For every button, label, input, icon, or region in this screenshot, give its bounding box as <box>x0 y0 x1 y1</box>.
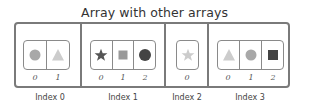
outer-index-label: Index 3 <box>220 93 280 102</box>
element-index: 0 <box>28 73 42 82</box>
element-index: 0 <box>221 73 235 82</box>
triangle-icon <box>222 48 236 62</box>
triangle-icon <box>51 48 65 62</box>
circle-icon <box>244 48 258 62</box>
diagram-title: Array with other arrays <box>0 5 309 20</box>
element-index: 1 <box>244 73 258 82</box>
outer-index-label: Index 0 <box>20 93 80 102</box>
array-cell <box>218 41 239 69</box>
inner-array-2 <box>176 40 199 70</box>
outer-index-label: Index 2 <box>157 93 217 102</box>
array-cell <box>261 41 283 69</box>
element-index: 0 <box>94 73 108 82</box>
element-index: 2 <box>266 73 280 82</box>
element-index: 1 <box>116 73 130 82</box>
array-cell <box>24 41 46 69</box>
inner-array-1 <box>90 40 156 70</box>
array-cell <box>239 41 261 69</box>
element-index: 1 <box>51 73 65 82</box>
array-cell <box>133 41 155 69</box>
star-icon <box>181 48 195 62</box>
array-cell <box>177 41 198 69</box>
outer-index-label: Index 1 <box>93 93 153 102</box>
outer-divider <box>207 22 209 88</box>
array-cell <box>112 41 134 69</box>
star-icon <box>94 48 108 62</box>
inner-array-3 <box>217 40 284 70</box>
array-cell <box>46 41 69 69</box>
element-index: 2 <box>138 73 152 82</box>
element-index: 0 <box>180 73 194 82</box>
array-cell <box>91 41 112 69</box>
outer-divider <box>80 22 82 88</box>
circle-icon <box>28 48 42 62</box>
square-icon <box>266 48 280 62</box>
circle-icon <box>138 48 152 62</box>
square-icon <box>116 48 130 62</box>
inner-array-0 <box>23 40 70 70</box>
outer-divider <box>164 22 166 88</box>
